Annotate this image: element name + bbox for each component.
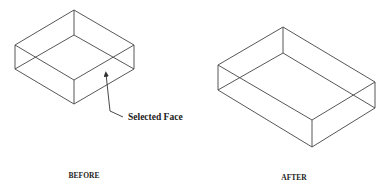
after-box — [218, 27, 375, 147]
box-face-outline — [15, 35, 134, 104]
box-face-outline — [15, 10, 134, 80]
diagram-canvas: Selected Face BEFORE AFTER — [0, 0, 390, 187]
box-face-outline — [218, 27, 375, 120]
before-box — [15, 10, 134, 104]
box-face-outline — [218, 53, 375, 147]
after-caption: AFTER — [281, 173, 307, 182]
selected-face-label: Selected Face — [128, 112, 183, 122]
before-caption: BEFORE — [69, 171, 100, 180]
